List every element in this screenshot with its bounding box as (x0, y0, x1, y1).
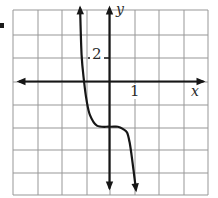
y-axis-down-arrowhead (106, 182, 113, 191)
x-tick-label-1: 1 (128, 84, 142, 99)
x-axis-left-arrowhead (17, 78, 26, 85)
graph-figure: y x 2 1 (0, 0, 218, 198)
y-axis-label: y (116, 2, 124, 16)
plot-svg (0, 0, 218, 198)
y-tick-label-2: 2 (90, 47, 104, 62)
x-axis-label: x (191, 84, 199, 98)
axes (17, 6, 206, 191)
